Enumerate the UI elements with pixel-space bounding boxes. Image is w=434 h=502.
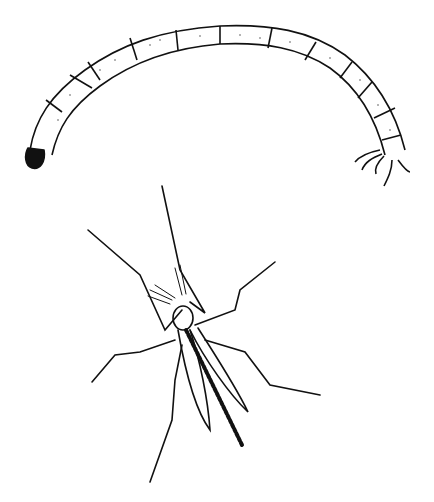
illustration — [0, 0, 434, 502]
adult-midge — [88, 186, 320, 482]
larva-stipple — [57, 34, 391, 131]
larva — [26, 26, 410, 186]
